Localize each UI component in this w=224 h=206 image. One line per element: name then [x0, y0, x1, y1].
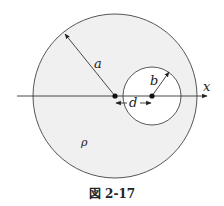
label-x: x — [203, 79, 211, 94]
label-rho: ρ — [80, 136, 88, 149]
label-b: b — [150, 73, 158, 88]
label-d: d — [129, 95, 137, 110]
inner-center-dot — [149, 93, 154, 98]
label-a: a — [94, 56, 102, 71]
diagram-canvas: a b d x ρ 図 2-17 — [0, 0, 224, 206]
figure-caption: 図 2-17 — [89, 187, 135, 201]
outer-center-dot — [112, 93, 117, 98]
